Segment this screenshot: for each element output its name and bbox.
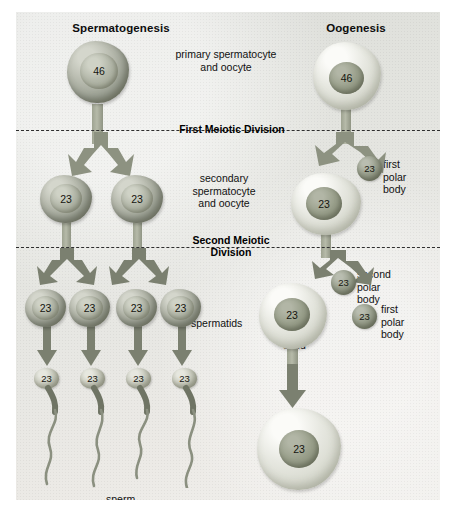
heading-spermatogenesis: Spermatogenesis	[46, 22, 196, 34]
label-first-polar-body-meiosis2: first polar body	[381, 303, 437, 341]
cell-first-polar-body-meiosis2: 23	[352, 304, 377, 329]
diagram-layer: Spermatogenesis Oogenesis First Meiotic …	[16, 12, 440, 500]
cell-primary-oocyte: 46	[313, 42, 381, 110]
arrow-spermatid-to-sperm-1	[36, 326, 60, 368]
diagram-canvas: Spermatogenesis Oogenesis First Meiotic …	[16, 12, 440, 500]
cell-spermatid-4: 23	[160, 289, 201, 327]
arrow-spermatid-to-sperm-4	[171, 326, 195, 368]
arrow-ootid-to-egg	[277, 364, 309, 410]
nucleus: 23	[167, 296, 194, 320]
sperm-cell-4: 23	[166, 368, 226, 488]
cell-spermatid-2: 23	[69, 289, 110, 327]
heading-oogenesis: Oogenesis	[301, 22, 411, 34]
nucleus: 23	[306, 187, 342, 220]
first-meiotic-division-label: First Meiotic Division	[138, 123, 326, 135]
label-primary-spermatocyte-and-oocyte: primary spermatocyte and oocyte	[156, 48, 296, 73]
cell-spermatid-3: 23	[116, 289, 157, 327]
cell-second-polar-body: 23	[331, 270, 356, 295]
cell-ootid: 23	[259, 283, 327, 349]
cell-egg: 23	[257, 408, 341, 490]
nucleus: 23	[50, 184, 82, 213]
nucleus: 23	[123, 296, 150, 320]
polar-body-count: 23	[352, 304, 377, 329]
nucleus: 23	[121, 184, 153, 213]
cell-secondary-spermatocyte-2: 23	[111, 175, 163, 223]
nucleus: 23	[32, 296, 59, 320]
nucleus: 46	[80, 53, 118, 89]
arrow-spermatid-to-sperm-3	[127, 326, 151, 368]
sperm-tail	[166, 368, 226, 488]
label-secondary-spermatocyte-and-oocyte: secondary spermatocyte and oocyte	[164, 172, 284, 210]
arrow-spermatid-to-sperm-2	[80, 326, 104, 368]
cell-secondary-spermatocyte-1: 23	[40, 175, 92, 223]
cell-spermatid-1: 23	[25, 289, 66, 327]
second-meiotic-division-label: Second Meiotic Division	[162, 234, 300, 258]
nucleus: 23	[279, 430, 319, 468]
nucleus: 46	[329, 62, 364, 94]
nucleus: 23	[274, 298, 310, 331]
label-sperm: sperm	[106, 493, 166, 500]
nucleus: 23	[76, 296, 103, 320]
cell-secondary-oocyte: 23	[291, 173, 361, 235]
cell-primary-spermatocyte: 46	[67, 41, 129, 103]
polar-body-count: 23	[331, 270, 356, 295]
